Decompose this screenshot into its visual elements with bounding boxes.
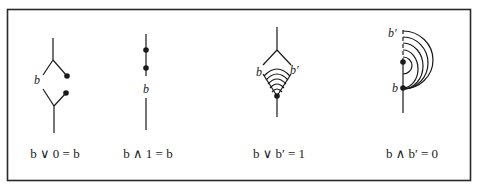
label-b: b xyxy=(392,81,398,96)
caption-join-with-zero: b ∨ 0 = b xyxy=(30,146,79,162)
node-dot xyxy=(64,73,70,79)
node-dot xyxy=(143,47,149,53)
label-b-prime: b′ xyxy=(290,63,299,78)
node-dot xyxy=(400,85,406,91)
node-dot xyxy=(400,59,406,65)
diagram-join-with-complement xyxy=(263,27,291,117)
caption-join-with-complement: b ∨ b′ = 1 xyxy=(253,146,305,162)
caption-meet-with-complement: b ∧ b′ = 0 xyxy=(386,146,438,162)
diagram-meet-with-complement xyxy=(400,30,433,113)
label-b-prime: b′ xyxy=(388,26,397,41)
caption-meet-with-one: b ∧ 1 = b xyxy=(123,146,172,162)
node-dot xyxy=(143,65,149,71)
label-b: b xyxy=(256,65,262,80)
node-dot xyxy=(63,90,69,96)
diagram-join-with-zero xyxy=(43,38,70,133)
node-dot xyxy=(274,93,280,99)
label-b: b xyxy=(34,73,40,88)
label-b: b xyxy=(143,82,149,97)
